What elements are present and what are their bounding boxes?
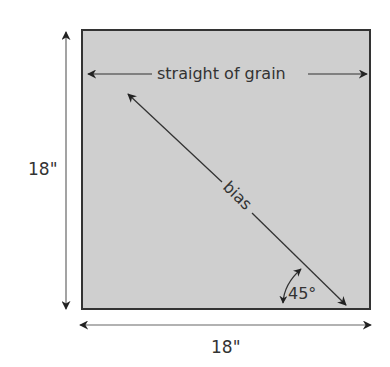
angle-label: 45° [288,284,316,303]
bias-grain-diagram: 18" 18" straight of grain bias 45° [0,0,390,367]
grain-label: straight of grain [157,64,286,83]
height-label: 18" [28,159,57,179]
width-label: 18" [211,337,240,357]
